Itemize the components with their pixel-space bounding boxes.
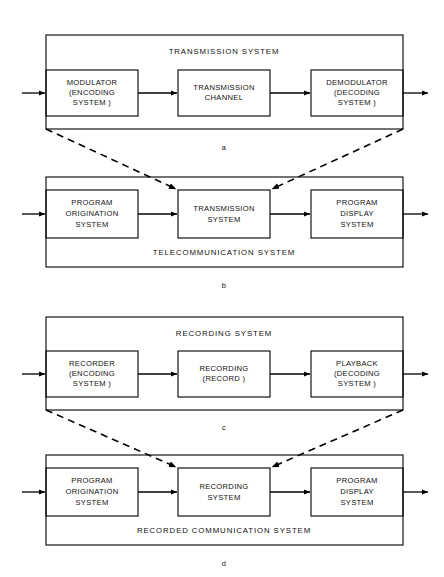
panel-a-block-3-line-1: DEMODULATOR [326,78,388,87]
panel-b-block-3-line-1: PROGRAM [336,198,377,207]
panel-c-block-1-line-2: (ENCODING [69,369,115,378]
panel-a-block-3-line-2: (DECODING [334,88,380,97]
panel-b-block-1-line-3: SYSTEM [75,220,108,229]
panel-c-block-1-line-3: SYSTEM ) [73,379,111,388]
panel-c-block-1-line-1: RECORDER [69,359,115,368]
panel-d-block-1-line-2: ORIGINATION [66,487,119,496]
panel-a-block-1-line-1: MODULATOR [67,78,118,87]
panel-c-system-label: RECORDING SYSTEM [176,329,272,338]
panel-b-block-1-line-2: ORIGINATION [66,209,119,218]
panel-a-block-2-line-2: CHANNEL [205,93,243,102]
panel-d-block-3-line-1: PROGRAM [336,476,377,485]
panel-b-system-label: TELECOMMUNICATION SYSTEM [153,248,295,257]
panel-d-block-1-line-1: PROGRAM [71,476,112,485]
panel-d-block-3-line-3: SYSTEM [340,498,373,507]
panel-c-block-3-line-1: PLAYBACK [336,359,378,368]
panel-a-system-label: TRANSMISSION SYSTEM [169,47,280,56]
panel-a-letter: a [222,143,227,152]
panel-b-block-3-line-2: DISPLAY [340,209,374,218]
panel-b-block-1-line-1: PROGRAM [71,198,112,207]
panel-a-block-1-line-2: (ENCODING [69,88,115,97]
panel-c-block-2-line-2: (RECORD ) [203,374,246,383]
panel-b-block-2-line-2: SYSTEM [207,215,240,224]
panel-d-block-3-line-2: DISPLAY [340,487,374,496]
figure-communication-systems: TRANSMISSION SYSTEM MODULATOR (ENCODING … [0,0,444,577]
panel-b-letter: b [222,281,226,290]
panel-d-block-2-line-2: SYSTEM [207,493,240,502]
panel-b-block-3-line-3: SYSTEM [340,220,373,229]
panel-a-block-1-line-3: SYSTEM ) [73,98,111,107]
panel-d-block-2-line-1: RECORDING [199,482,248,491]
panel-c-block-3-line-2: (DECODING [334,369,380,378]
panel-d-system-label: RECORDED COMMUNICATION SYSTEM [137,526,311,535]
panel-a-block-2-line-1: TRANSMISSION [193,83,254,92]
panel-c-letter: c [222,423,226,432]
panel-c-block-2-line-1: RECORDING [199,364,248,373]
panel-d-letter: d [222,559,226,568]
panel-a-block-3-line-3: SYSTEM ) [338,98,376,107]
panel-d-block-1-line-3: SYSTEM [75,498,108,507]
panel-b-block-2-line-1: TRANSMISSION [193,204,254,213]
panel-c-block-3-line-3: SYSTEM ) [338,379,376,388]
